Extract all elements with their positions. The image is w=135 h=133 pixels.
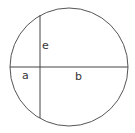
circle-chord-diagram: e a b — [0, 0, 135, 133]
label-e: e — [42, 39, 49, 52]
label-b: b — [75, 70, 82, 83]
label-a: a — [22, 69, 29, 82]
